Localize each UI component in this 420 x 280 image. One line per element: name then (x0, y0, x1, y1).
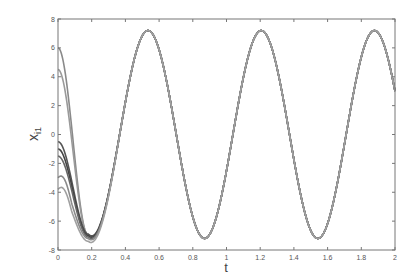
trajectory-line (58, 31, 395, 239)
y-tick-label: 2 (51, 102, 55, 109)
y-tick-label: -6 (49, 218, 55, 225)
y-tick-label: -2 (49, 160, 55, 167)
y-tick-label: 4 (51, 73, 55, 80)
plot-frame (58, 19, 395, 250)
x-tick-label: 2 (393, 254, 397, 261)
x-tick-label: 1.6 (323, 254, 333, 261)
y-axis-ticks: -8-6-4-202468 (49, 16, 395, 254)
trajectory-line (58, 31, 395, 239)
plot-lines (58, 31, 395, 243)
trajectory-line (58, 31, 395, 239)
trajectory-line (58, 31, 395, 240)
trajectory-line (58, 31, 395, 239)
y-tick-label: -8 (49, 247, 55, 254)
x-tick-label: 0.2 (87, 254, 97, 261)
x-tick-label: 0.8 (188, 254, 198, 261)
y-axis-label: xi1 (25, 127, 43, 141)
chart: 00.20.40.60.811.21.41.61.82 -8-6-4-20246… (0, 0, 420, 280)
trajectory-line (58, 31, 395, 239)
y-tick-label: 8 (51, 16, 55, 23)
y-tick-label: 6 (51, 44, 55, 51)
y-axis-label-sub: i1 (33, 127, 43, 134)
y-tick-label: -4 (49, 189, 55, 196)
x-tick-label: 0 (56, 254, 60, 261)
x-tick-label: 1.8 (356, 254, 366, 261)
trajectory-line (58, 31, 395, 243)
x-axis-label: t (224, 260, 228, 275)
y-tick-label: 0 (51, 131, 55, 138)
x-tick-label: 1.2 (255, 254, 265, 261)
y-axis-label-main: x (25, 134, 41, 141)
x-tick-label: 0.4 (121, 254, 131, 261)
x-tick-label: 0.6 (154, 254, 164, 261)
svg-text:xi1: xi1 (25, 127, 43, 141)
x-tick-label: 1.4 (289, 254, 299, 261)
